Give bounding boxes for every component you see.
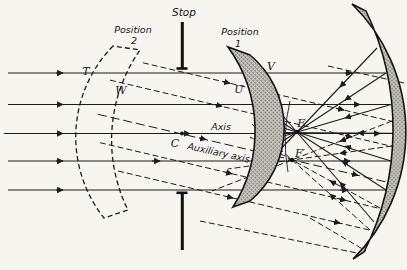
position-1-label: Position <box>221 26 258 37</box>
position-2-label: Position <box>114 24 151 35</box>
reflected-ray <box>277 109 374 222</box>
focus-point <box>295 130 299 134</box>
stop-lower-foot <box>177 192 188 195</box>
optics-figure: Stop Position 2 Position 1 T W U V C Axi… <box>0 0 407 270</box>
axis-label: Axis <box>210 121 231 132</box>
point-u-label: U <box>234 83 244 96</box>
stop-label: Stop <box>172 6 196 18</box>
incident-axial-rays <box>4 73 393 190</box>
focus-prime-point <box>290 158 294 162</box>
position-1-number: 1 <box>235 38 241 49</box>
center-of-curvature-point <box>180 132 184 136</box>
point-w-label: W <box>115 84 128 97</box>
stop-upper-foot <box>177 67 188 70</box>
point-v-label: V <box>267 60 276 73</box>
point-t-label: T <box>82 65 91 78</box>
stop-lower-bar <box>181 194 184 250</box>
reflected-ray <box>277 73 386 145</box>
focus-label: F <box>296 117 305 130</box>
stop-aperture <box>177 22 188 250</box>
focus-prime-label: F′ <box>294 147 306 160</box>
lens-position-1 <box>228 47 284 207</box>
position-2-number: 2 <box>131 35 137 46</box>
reflected-axial-rays <box>277 48 393 222</box>
center-of-curvature-label: C <box>171 137 180 150</box>
optical-diagram: Stop Position 2 Position 1 T W U V C Axi… <box>0 0 407 270</box>
reflected-ray <box>277 48 377 153</box>
oblique-ray <box>200 221 357 253</box>
auxiliary-axis-line <box>98 114 391 183</box>
stop-upper-bar <box>181 22 184 68</box>
